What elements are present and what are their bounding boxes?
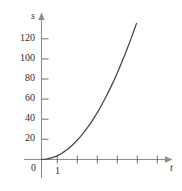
x-axis-label: t <box>170 163 173 173</box>
y-axis-arrowhead <box>38 13 44 21</box>
y-axis-label: s <box>31 11 35 21</box>
y-axis-ticks <box>42 39 49 140</box>
y-tick-label-60: 60 <box>2 93 35 103</box>
y-tick-label-120: 120 <box>2 33 35 43</box>
chart-figure: 120 100 80 60 40 20 0 1 s t <box>0 0 182 191</box>
y-tick-label-100: 100 <box>2 53 35 63</box>
y-tick-label-20: 20 <box>2 133 35 143</box>
y-tick-label-40: 40 <box>2 113 35 123</box>
y-tick-label-80: 80 <box>2 73 35 83</box>
x-tick-label-1: 1 <box>55 166 60 176</box>
data-curve <box>42 23 137 159</box>
origin-label: 0 <box>31 163 36 173</box>
